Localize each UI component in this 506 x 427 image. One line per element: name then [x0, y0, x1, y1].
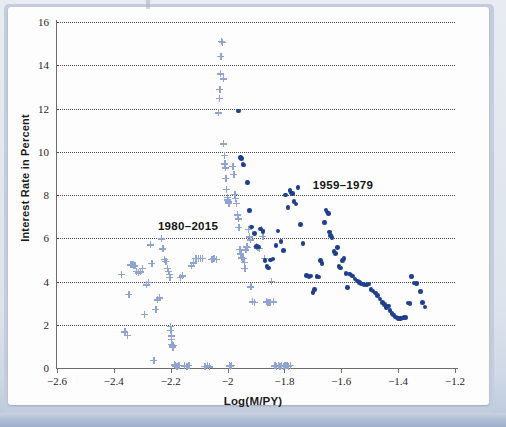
data-point: [230, 171, 237, 178]
data-point: [338, 266, 343, 271]
data-point: [281, 248, 286, 253]
data-point: [199, 255, 206, 262]
x-tick-mark: [455, 368, 456, 373]
x-tick-mark: [398, 368, 399, 373]
data-point: [215, 109, 222, 116]
data-point: [408, 301, 413, 306]
data-point: [322, 220, 327, 225]
x-tick-mark: [341, 368, 342, 373]
data-point: [185, 362, 192, 369]
data-point: [271, 257, 276, 262]
data-point: [286, 205, 291, 210]
x-tick-label: −2: [208, 375, 248, 387]
data-point: [124, 332, 131, 339]
x-tick-label: −2.6: [37, 375, 77, 387]
data-point: [139, 265, 146, 272]
data-point: [263, 258, 268, 263]
y-tick-label: 0: [23, 362, 49, 374]
data-point: [242, 163, 247, 168]
data-point: [220, 75, 227, 82]
y-tick-label: 4: [23, 276, 49, 288]
data-point: [251, 299, 258, 306]
data-point: [216, 86, 223, 93]
series-label: 1980–2015: [158, 220, 218, 232]
data-point: [345, 285, 350, 290]
data-point: [290, 191, 295, 196]
data-point: [245, 180, 250, 185]
data-point: [239, 156, 244, 161]
data-point: [418, 289, 423, 294]
data-point: [229, 163, 236, 170]
data-point: [296, 185, 301, 190]
data-point: [241, 265, 248, 272]
x-tick-mark: [57, 368, 58, 373]
data-point: [170, 342, 177, 349]
data-point: [118, 271, 125, 278]
data-point: [268, 278, 275, 285]
data-point: [252, 231, 257, 236]
x-tick-mark: [114, 368, 115, 373]
x-tick-label: −1.2: [435, 375, 475, 387]
data-point: [233, 200, 240, 207]
x-tick-label: −2.2: [151, 375, 191, 387]
x-tick-label: −1.8: [264, 375, 304, 387]
data-point: [249, 225, 254, 230]
y-tick-label: 14: [23, 59, 49, 71]
data-point: [309, 274, 314, 279]
data-point: [145, 279, 152, 286]
data-point: [179, 272, 186, 279]
data-point: [294, 202, 299, 207]
data-point: [219, 39, 226, 46]
data-point: [125, 291, 132, 298]
data-point: [414, 281, 419, 286]
data-point: [403, 315, 408, 320]
data-point: [213, 256, 220, 263]
series-label: 1959–1979: [313, 179, 373, 191]
data-point: [220, 140, 227, 147]
data-point: [283, 193, 288, 198]
plot-area: [57, 22, 455, 368]
data-point: [333, 251, 338, 256]
data-point: [152, 306, 159, 313]
data-point: [217, 53, 224, 60]
data-point: [335, 245, 340, 250]
data-point: [274, 243, 279, 248]
y-tick-label: 10: [23, 146, 49, 158]
data-point: [279, 239, 284, 244]
data-point: [247, 208, 252, 213]
y-tick-label: 2: [23, 319, 49, 331]
data-point: [409, 274, 414, 279]
data-point: [158, 235, 165, 242]
data-point: [276, 229, 281, 234]
y-tick-label: 8: [23, 189, 49, 201]
data-point: [326, 211, 331, 216]
figure-container: Interest Rate in Percent 0246810121416 −…: [0, 0, 506, 427]
data-point: [216, 95, 223, 102]
data-point: [266, 266, 271, 271]
data-point: [270, 298, 277, 305]
data-point: [148, 260, 155, 267]
data-point: [330, 235, 335, 240]
data-point: [244, 244, 251, 251]
data-point: [206, 363, 213, 370]
data-point: [228, 362, 235, 369]
x-tick-label: −1.4: [378, 375, 418, 387]
data-point: [320, 261, 325, 266]
data-point: [423, 305, 428, 310]
data-point: [221, 152, 228, 159]
data-point: [141, 311, 148, 318]
data-point: [156, 294, 163, 301]
y-tick-label: 6: [23, 232, 49, 244]
data-point: [223, 186, 230, 193]
data-point: [298, 222, 303, 227]
data-point: [235, 215, 242, 222]
data-point: [247, 283, 254, 290]
data-point: [166, 274, 173, 281]
y-tick-label: 12: [23, 103, 49, 115]
data-point: [159, 245, 166, 252]
data-point: [301, 241, 306, 246]
data-point: [287, 362, 294, 369]
x-tick-label: −2.4: [94, 375, 134, 387]
data-point: [342, 256, 347, 261]
scan-artifact: [146, 0, 150, 9]
